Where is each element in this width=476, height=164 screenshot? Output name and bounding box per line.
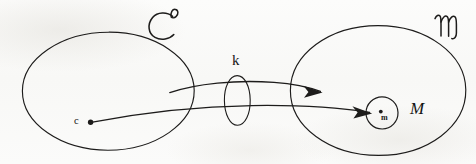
map-label-k: k (232, 53, 240, 68)
point-c-dot (88, 120, 93, 125)
diagram-canvas: k c m M (0, 0, 476, 164)
map-ellipse (224, 76, 250, 126)
domain-set-label (149, 9, 178, 39)
point-m-label: m (381, 114, 388, 122)
diagram-svg (0, 0, 476, 164)
map-arrow-k (170, 82, 323, 98)
neighborhood-label-M: M (410, 100, 424, 117)
codomain-set-label (435, 15, 456, 39)
domain-ellipse (22, 32, 194, 150)
element-arrow-c-to-m (93, 105, 373, 122)
point-c-label: c (74, 116, 79, 127)
